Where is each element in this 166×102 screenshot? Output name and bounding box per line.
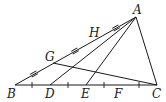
- segment-CA: [136, 17, 157, 85]
- label-E: E: [80, 87, 90, 101]
- label-A: A: [132, 3, 142, 17]
- label-C: C: [152, 87, 161, 101]
- segment-AB: [15, 17, 136, 85]
- label-H: H: [88, 26, 100, 40]
- label-B: B: [6, 87, 16, 101]
- geometry-diagram: A B C D E F G H: [0, 0, 166, 102]
- label-G: G: [45, 50, 55, 64]
- label-D: D: [44, 87, 55, 101]
- label-F: F: [113, 87, 123, 101]
- segment-GC: [53, 63, 157, 85]
- triangle-figure: A B C D E F G H: [0, 0, 166, 102]
